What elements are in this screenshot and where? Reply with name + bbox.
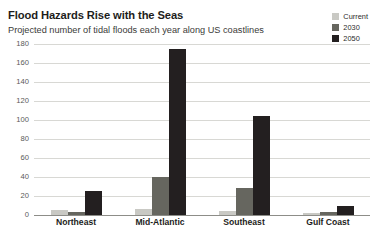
y-axis-tick-label: 0	[25, 211, 29, 219]
legend-item[interactable]: Current	[332, 12, 368, 21]
y-axis-tick-label: 180	[16, 40, 29, 48]
plot-wrapper: 020406080100120140160180 NortheastMid-At…	[0, 44, 374, 242]
chart-title: Flood Hazards Rise with the Seas	[8, 9, 308, 22]
legend-item[interactable]: 2030	[332, 23, 359, 32]
bar[interactable]	[85, 191, 102, 215]
bar[interactable]	[68, 212, 85, 215]
bar[interactable]	[320, 212, 337, 215]
x-axis-tick-label: Gulf Coast	[286, 217, 370, 228]
bar[interactable]	[219, 211, 236, 215]
bar-groups	[34, 44, 370, 215]
x-axis-line	[34, 215, 370, 216]
x-axis-tick-label: Northeast	[34, 217, 118, 228]
bar-group	[286, 44, 370, 215]
legend-item-label: 2030	[343, 23, 359, 32]
bar[interactable]	[337, 206, 354, 216]
chart-subtitle: Projected number of tidal floods each ye…	[8, 24, 308, 36]
y-axis-tick-label: 20	[21, 192, 29, 200]
y-axis-tick-label: 120	[16, 97, 29, 105]
x-axis-tick-label: Mid-Atlantic	[118, 217, 202, 228]
y-axis-tick-label: 160	[16, 59, 29, 67]
bar[interactable]	[51, 210, 68, 215]
bar[interactable]	[135, 209, 152, 215]
x-axis-tick-labels: NortheastMid-AtlanticSoutheastGulf Coast	[34, 217, 370, 228]
legend-swatch-icon	[332, 13, 339, 20]
legend-swatch-icon	[332, 35, 339, 42]
bar[interactable]	[303, 213, 320, 215]
y-axis-tick-label: 80	[21, 135, 29, 143]
bar[interactable]	[169, 49, 186, 215]
bar[interactable]	[236, 188, 253, 215]
bar[interactable]	[253, 116, 270, 215]
legend-swatch-icon	[332, 24, 339, 31]
bar-group	[34, 44, 118, 215]
legend-item-label: 2050	[343, 34, 359, 43]
y-axis-tick-label: 40	[21, 173, 29, 181]
chart-header: Flood Hazards Rise with the Seas Project…	[8, 9, 308, 36]
y-axis-tick-label: 100	[16, 116, 29, 124]
bar-group	[118, 44, 202, 215]
bar-group	[202, 44, 286, 215]
bar[interactable]	[152, 177, 169, 215]
flood-hazards-bar-chart: Flood Hazards Rise with the Seas Project…	[0, 0, 374, 242]
y-axis-tick-labels: 020406080100120140160180	[0, 44, 34, 215]
legend-item-label: Current	[343, 12, 368, 21]
x-axis-tick-label: Southeast	[202, 217, 286, 228]
y-axis-tick-label: 60	[21, 154, 29, 162]
y-axis-tick-label: 140	[16, 78, 29, 86]
chart-legend: Current20302050	[332, 12, 368, 43]
legend-item[interactable]: 2050	[332, 34, 359, 43]
